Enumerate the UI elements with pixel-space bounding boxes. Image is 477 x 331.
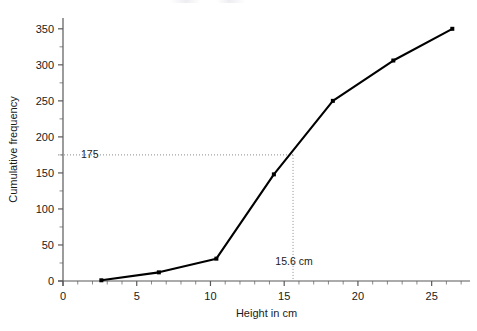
y-tick-label: 150 (36, 167, 54, 179)
y-tick-label: 200 (36, 131, 54, 143)
x-tick-label: 5 (134, 290, 140, 302)
annotation-label-15-6-cm: 15.6 cm (275, 255, 313, 267)
y-tick-label: 300 (36, 59, 54, 71)
x-axis-tick-labels: 0510152025 (60, 290, 438, 302)
x-tick-label: 20 (352, 290, 364, 302)
x-tick-label: 25 (426, 290, 438, 302)
series-line-cumulative-frequency (101, 29, 452, 280)
y-tick-label: 50 (42, 239, 54, 251)
chart-canvas: 0510152025 050100150200250300350 175 15.… (0, 0, 477, 331)
data-point-marker (450, 27, 454, 31)
data-point-marker (272, 172, 276, 176)
annotation-guides (58, 155, 293, 281)
x-tick-label: 15 (278, 290, 290, 302)
series-markers (99, 27, 454, 282)
y-tick-label: 0 (48, 275, 54, 287)
top-edge-artifact (170, 0, 260, 3)
axis-ticks-major-x (63, 281, 432, 286)
data-point-marker (331, 99, 335, 103)
x-tick-label: 10 (204, 290, 216, 302)
x-axis-title: Height in cm (236, 307, 297, 319)
annotation-label-175: 175 (81, 148, 99, 160)
data-point-marker (391, 59, 395, 63)
data-point-marker (157, 270, 161, 274)
x-tick-label: 0 (60, 290, 66, 302)
cumulative-frequency-chart: 0510152025 050100150200250300350 175 15.… (0, 0, 477, 331)
y-axis-title: Cumulative frequency (7, 96, 19, 203)
data-point-marker (99, 278, 103, 282)
data-point-marker (214, 257, 218, 261)
y-axis-tick-labels: 050100150200250300350 (36, 23, 54, 287)
y-tick-label: 250 (36, 95, 54, 107)
y-tick-label: 100 (36, 203, 54, 215)
y-tick-label: 350 (36, 23, 54, 35)
